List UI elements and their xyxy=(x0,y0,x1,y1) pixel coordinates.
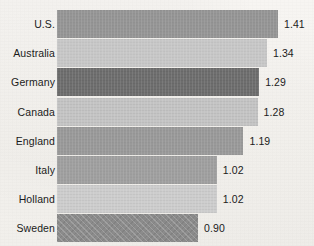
bar-category-label: Australia xyxy=(13,39,55,67)
bar-category-label: Italy xyxy=(35,156,55,184)
bar-value-label: 1.29 xyxy=(265,68,286,96)
bar-category-label: Germany xyxy=(11,68,55,96)
bar-category-label: Holland xyxy=(19,185,55,213)
bar xyxy=(57,98,258,126)
bar-row: England1.19 xyxy=(0,127,314,155)
bar-category-label: England xyxy=(16,127,55,155)
bar-row: Germany1.29 xyxy=(0,68,314,96)
bar xyxy=(57,185,217,213)
bar-row: Italy1.02 xyxy=(0,156,314,184)
bar-value-label: 0.90 xyxy=(204,214,225,242)
bar xyxy=(57,214,198,242)
bar-value-label: 1.34 xyxy=(273,39,294,67)
bar-row: Australia1.34 xyxy=(0,39,314,67)
bar-value-label: 1.41 xyxy=(284,10,305,38)
bar xyxy=(57,68,259,96)
bar-row: Sweden0.90 xyxy=(0,214,314,242)
bar-chart: U.S.1.41Australia1.34Germany1.29Canada1.… xyxy=(0,0,314,246)
bar-category-label: U.S. xyxy=(34,10,55,38)
bar xyxy=(57,127,243,155)
bar-row: U.S.1.41 xyxy=(0,10,314,38)
bar-category-label: Canada xyxy=(18,98,55,126)
bar-category-label: Sweden xyxy=(16,214,55,242)
bar-row: Holland1.02 xyxy=(0,185,314,213)
bar-value-label: 1.28 xyxy=(264,98,285,126)
bar-row: Canada1.28 xyxy=(0,98,314,126)
bar-value-label: 1.02 xyxy=(223,185,244,213)
bar xyxy=(57,156,217,184)
bar xyxy=(57,39,267,67)
bar-value-label: 1.02 xyxy=(223,156,244,184)
bar xyxy=(57,10,278,38)
bar-value-label: 1.19 xyxy=(249,127,270,155)
